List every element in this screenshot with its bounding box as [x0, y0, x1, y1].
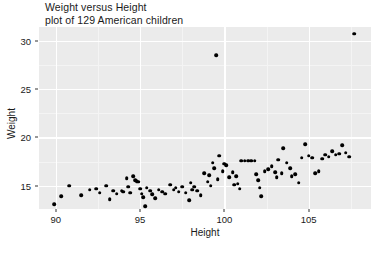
data-point	[285, 161, 289, 165]
gridline-minor-vertical	[267, 27, 268, 209]
gridline-major-vertical	[309, 27, 310, 209]
data-point	[127, 185, 131, 189]
data-point	[142, 196, 146, 200]
data-point	[347, 155, 351, 159]
data-point	[211, 161, 215, 165]
y-tick-mark	[35, 137, 38, 138]
gridline-minor-vertical	[98, 27, 99, 209]
x-tick-mark	[55, 209, 56, 212]
data-point	[234, 174, 238, 178]
data-point	[128, 191, 132, 195]
data-point	[300, 156, 304, 160]
data-point	[327, 155, 331, 159]
data-point	[320, 157, 324, 161]
data-point	[206, 180, 210, 184]
data-point	[293, 172, 297, 176]
gridline-major-vertical	[224, 27, 225, 209]
data-point	[236, 182, 240, 186]
data-point	[212, 167, 216, 171]
data-point	[337, 152, 341, 156]
x-tick-mark	[308, 209, 309, 212]
data-point	[260, 195, 264, 199]
data-point	[121, 190, 125, 194]
data-point	[79, 194, 83, 198]
data-point	[238, 187, 242, 191]
data-point	[297, 181, 301, 185]
y-tick-mark	[35, 40, 38, 41]
gridline-major-horizontal	[39, 89, 371, 90]
x-tick-label: 100	[209, 214, 239, 225]
gridline-major-vertical	[56, 27, 57, 209]
data-point	[224, 164, 228, 168]
data-point	[137, 180, 141, 184]
data-point	[153, 197, 157, 201]
scatter-plot-figure: Weight versus Height plot of 129 America…	[0, 0, 385, 259]
data-point	[95, 187, 99, 191]
data-point	[310, 156, 314, 160]
data-point	[221, 169, 225, 173]
data-point	[270, 165, 274, 169]
data-point	[169, 183, 173, 187]
y-tick-mark	[35, 185, 38, 186]
data-point	[98, 191, 102, 195]
x-tick-mark	[224, 209, 225, 212]
x-axis-label: Height	[39, 227, 371, 238]
gridline-minor-horizontal	[39, 162, 371, 163]
data-point	[288, 167, 292, 171]
data-point	[184, 191, 188, 195]
chart-title: Weight versus Height plot of 129 America…	[45, 1, 365, 27]
data-point	[253, 159, 257, 163]
data-point	[282, 146, 286, 150]
data-point	[52, 202, 56, 206]
gridline-minor-horizontal	[39, 65, 371, 66]
data-point	[125, 176, 129, 180]
data-point	[280, 171, 284, 175]
y-tick-label: 15	[7, 180, 31, 191]
data-point	[344, 151, 348, 155]
data-point	[180, 185, 184, 189]
data-point	[218, 154, 222, 158]
x-tick-label: 105	[294, 214, 324, 225]
gridline-major-vertical	[140, 27, 141, 209]
data-point	[143, 204, 147, 208]
data-point	[255, 172, 259, 176]
data-point	[88, 188, 92, 192]
data-point	[352, 32, 356, 36]
gridline-major-horizontal	[39, 137, 371, 138]
x-tick-label: 95	[125, 214, 155, 225]
data-point	[192, 185, 196, 189]
data-point	[202, 171, 206, 175]
x-tick-mark	[140, 209, 141, 212]
data-point	[189, 181, 193, 185]
data-point	[231, 170, 235, 174]
plot-panel	[39, 27, 371, 209]
y-tick-label: 30	[7, 35, 31, 46]
data-point	[187, 198, 191, 202]
data-point	[275, 175, 279, 179]
gridline-major-horizontal	[39, 41, 371, 42]
data-point	[228, 175, 232, 179]
data-point	[108, 198, 112, 202]
data-point	[138, 187, 142, 191]
data-point	[105, 184, 109, 188]
data-point	[196, 189, 200, 193]
data-point	[164, 192, 168, 196]
data-point	[68, 184, 72, 188]
data-point	[207, 173, 211, 177]
data-point	[214, 53, 218, 57]
y-axis-label: Weight	[6, 94, 17, 154]
data-point	[216, 177, 220, 181]
data-point	[115, 192, 119, 196]
gridline-minor-vertical	[182, 27, 183, 209]
data-point	[277, 158, 281, 162]
data-point	[341, 143, 345, 147]
gridline-minor-vertical	[351, 27, 352, 209]
data-point	[174, 186, 178, 190]
data-point	[150, 193, 154, 197]
data-point	[59, 195, 63, 199]
y-tick-mark	[35, 88, 38, 89]
data-point	[209, 184, 213, 188]
data-point	[330, 149, 334, 153]
data-point	[273, 170, 277, 174]
data-point	[303, 142, 307, 146]
